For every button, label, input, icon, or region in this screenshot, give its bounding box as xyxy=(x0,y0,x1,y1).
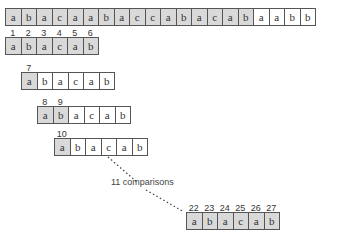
dotted-connector xyxy=(0,0,337,236)
comparisons-annotation: 11 comparisons xyxy=(111,177,174,187)
